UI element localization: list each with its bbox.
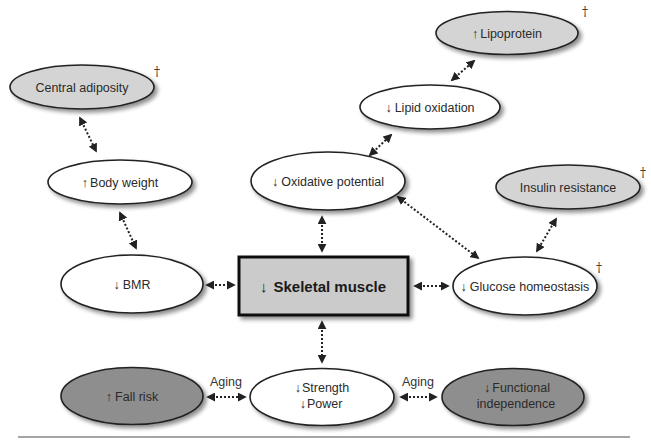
svg-text:↑Body weight: ↑Body weight [82,176,159,190]
increase-arrow-icon: ↑ [82,176,88,190]
node-functional-independence: ↓Functional independence [442,369,584,426]
edge-lipid-oxidation-lipoprotein [452,61,474,80]
node-lipoprotein: ↑Lipoprotein † [436,5,588,55]
svg-text:↓Power: ↓Power [300,397,343,411]
edge-central-adiposity-body-weight [80,118,96,151]
edge-insulin-resistance-glucose [537,219,556,251]
dagger-mark: † [640,166,646,180]
node-lipid-oxidation: ↓Lipid oxidation [360,85,500,129]
increase-arrow-icon: ↑ [106,390,112,404]
decrease-arrow-icon: ↓ [272,175,278,189]
dagger-mark: † [596,261,602,275]
edge-body-weight-bmr [120,213,136,248]
node-body-weight: ↑Body weight [48,160,192,204]
svg-text:↓Oxidative potential: ↓Oxidative potential [272,175,384,189]
decrease-arrow-icon: ↓ [461,280,467,294]
node-bmr: ↓BMR [61,255,203,313]
svg-text:↑Lipoprotein: ↑Lipoprotein [472,27,542,41]
node-skeletal-muscle: ↓Skeletal muscle [239,257,408,315]
svg-text:↓Lipid oxidation: ↓Lipid oxidation [385,101,474,115]
svg-text:Central adiposity: Central adiposity [35,81,129,95]
node-strength-power: ↓Strength ↓Power [250,369,394,426]
decrease-arrow-icon: ↓ [300,397,306,411]
decrease-arrow-icon: ↓ [260,278,268,295]
svg-text:↓Skeletal muscle: ↓Skeletal muscle [260,278,386,295]
aging-label-left: Aging [210,375,242,389]
svg-text:↓Glucose homeostasis: ↓Glucose homeostasis [461,280,590,294]
dagger-mark: † [582,5,588,19]
svg-text:independence: independence [477,397,556,411]
decrease-arrow-icon: ↓ [113,278,119,292]
node-central-adiposity: Central adiposity † [10,65,160,109]
svg-text:↓Functional: ↓Functional [484,381,550,395]
aging-label-right: Aging [402,375,434,389]
svg-text:↓BMR: ↓BMR [113,278,150,292]
node-insulin-resistance: Insulin resistance † [496,165,646,209]
svg-text:↓Strength: ↓Strength [295,381,350,395]
edge-oxidative-potential-glucose [398,197,478,258]
increase-arrow-icon: ↑ [472,27,478,41]
svg-text:Insulin resistance: Insulin resistance [520,181,617,195]
decrease-arrow-icon: ↓ [295,381,301,395]
edge-oxidative-potential-lipid-oxidation [370,135,391,155]
node-fall-risk: ↑Fall risk [61,368,203,425]
decrease-arrow-icon: ↓ [385,101,391,115]
dagger-mark: † [154,65,160,79]
node-glucose-homeostasis: ↓Glucose homeostasis † [453,257,602,315]
decrease-arrow-icon: ↓ [484,381,490,395]
node-oxidative-potential: ↓Oxidative potential [251,152,405,210]
skeletal-muscle-diagram: ↑Lipoprotein † Central adiposity † ↓Lipi… [0,0,651,441]
